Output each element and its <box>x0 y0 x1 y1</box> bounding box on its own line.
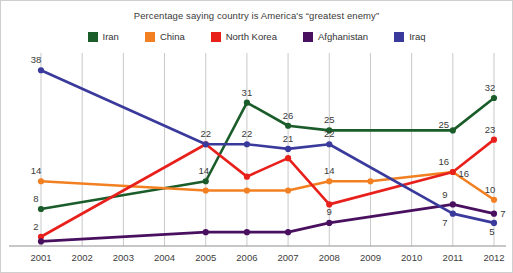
value-label-2012-10: 10 <box>485 184 496 195</box>
value-label-2008-25: 25 <box>324 114 335 125</box>
series-line-china <box>41 172 494 200</box>
data-point-iraq-2011[interactable] <box>450 211 456 217</box>
legend-item-iran[interactable]: Iran <box>88 31 119 42</box>
value-label-2001-8: 8 <box>33 193 38 204</box>
x-axis-tick-label-2011: 2011 <box>443 252 463 263</box>
value-label-2006-22: 22 <box>242 128 253 139</box>
legend-swatch-icon <box>211 32 221 42</box>
x-axis-tick-label-2012: 2012 <box>483 252 504 263</box>
data-point-afghanistan-2012[interactable] <box>491 211 497 217</box>
x-axis-tick-label-2001: 2001 <box>30 252 51 263</box>
value-label-2011-7: 7 <box>442 217 447 228</box>
series-line-north-korea <box>41 140 494 237</box>
data-point-china-2006[interactable] <box>244 187 250 193</box>
data-point-iraq-2008[interactable] <box>326 141 332 147</box>
value-label-2008-9: 9 <box>327 206 332 217</box>
data-point-china-2001[interactable] <box>38 178 44 184</box>
data-point-afghanistan-2007[interactable] <box>285 229 291 235</box>
x-axis-tick-label-2002: 2002 <box>72 252 93 263</box>
value-label-2005-14: 14 <box>198 165 209 176</box>
x-axis-tick-label-2003: 2003 <box>113 252 134 263</box>
data-point-afghanistan-2001[interactable] <box>38 238 44 244</box>
value-label-2012-23: 23 <box>485 124 496 135</box>
value-label-2011-16: 16 <box>439 156 450 167</box>
value-label-2001-2: 2 <box>33 221 38 232</box>
chart-container: Percentage saying country is America's “… <box>0 0 513 273</box>
x-axis-tick-label-2005: 2005 <box>195 252 216 263</box>
data-point-china-2009[interactable] <box>367 178 373 184</box>
legend-swatch-icon <box>145 32 155 42</box>
chart-legend: IranChinaNorth KoreaAfghanistanIraq <box>1 31 512 42</box>
x-axis-tick-label-2004: 2004 <box>154 252 175 263</box>
data-point-north-korea-2006[interactable] <box>244 174 250 180</box>
x-axis-tick-label-2006: 2006 <box>236 252 257 263</box>
data-point-iraq-2006[interactable] <box>244 141 250 147</box>
line-chart-svg: 2001200220032004200520062007200820092010… <box>1 49 513 273</box>
value-label-2011-25: 25 <box>439 119 450 130</box>
data-point-china-2005[interactable] <box>203 187 209 193</box>
data-point-afghanistan-2008[interactable] <box>326 220 332 226</box>
value-label-2007-21: 21 <box>283 133 294 144</box>
data-point-iran-2011[interactable] <box>450 127 456 133</box>
legend-item-china[interactable]: China <box>145 31 185 42</box>
value-label-2006-31: 31 <box>242 87 253 98</box>
legend-item-label: Afghanistan <box>318 31 368 42</box>
data-point-iran-2005[interactable] <box>203 178 209 184</box>
data-point-iran-2006[interactable] <box>244 100 250 106</box>
series-line-iran <box>41 98 494 209</box>
value-label-2011-16: 16 <box>459 168 470 179</box>
x-axis-tick-label-2009: 2009 <box>360 252 381 263</box>
legend-item-label: North Korea <box>226 31 277 42</box>
legend-item-iraq[interactable]: Iraq <box>394 31 425 42</box>
legend-item-north-korea[interactable]: North Korea <box>211 31 277 42</box>
x-axis-tick-label-2010: 2010 <box>401 252 422 263</box>
data-point-north-korea-2011[interactable] <box>450 169 456 175</box>
data-point-afghanistan-2011[interactable] <box>450 201 456 207</box>
data-point-afghanistan-2005[interactable] <box>203 229 209 235</box>
data-point-iraq-2001[interactable] <box>38 67 44 73</box>
value-label-2012-7: 7 <box>500 208 505 219</box>
value-label-2005-22: 22 <box>200 128 211 139</box>
value-label-2007-26: 26 <box>283 110 294 121</box>
value-label-2001-14: 14 <box>31 165 42 176</box>
data-point-iran-2012[interactable] <box>491 95 497 101</box>
value-label-2008-14: 14 <box>324 165 335 176</box>
value-label-2008-22: 22 <box>324 128 335 139</box>
data-point-iraq-2005[interactable] <box>203 141 209 147</box>
data-point-iraq-2007[interactable] <box>285 146 291 152</box>
data-point-china-2008[interactable] <box>326 178 332 184</box>
legend-swatch-icon <box>394 32 404 42</box>
data-point-china-2012[interactable] <box>491 197 497 203</box>
data-point-north-korea-2007[interactable] <box>285 155 291 161</box>
x-axis-tick-label-2008: 2008 <box>319 252 340 263</box>
plot-area: 2001200220032004200520062007200820092010… <box>1 49 513 273</box>
value-label-2001-38: 38 <box>31 54 42 65</box>
data-point-north-korea-2012[interactable] <box>491 137 497 143</box>
legend-swatch-icon <box>303 32 313 42</box>
legend-item-afghanistan[interactable]: Afghanistan <box>303 31 368 42</box>
data-point-iran-2007[interactable] <box>285 123 291 129</box>
legend-item-label: Iran <box>103 31 119 42</box>
value-label-2011-9: 9 <box>442 189 447 200</box>
series-line-afghanistan <box>41 204 494 241</box>
legend-item-label: Iraq <box>409 31 425 42</box>
data-point-iran-2001[interactable] <box>38 206 44 212</box>
value-label-2012-5: 5 <box>489 226 494 237</box>
data-point-afghanistan-2006[interactable] <box>244 229 250 235</box>
chart-title: Percentage saying country is America's “… <box>1 10 512 21</box>
x-axis-tick-label-2007: 2007 <box>278 252 299 263</box>
legend-item-label: China <box>160 31 185 42</box>
value-label-2012-32: 32 <box>485 82 496 93</box>
legend-swatch-icon <box>88 32 98 42</box>
data-point-china-2007[interactable] <box>285 187 291 193</box>
